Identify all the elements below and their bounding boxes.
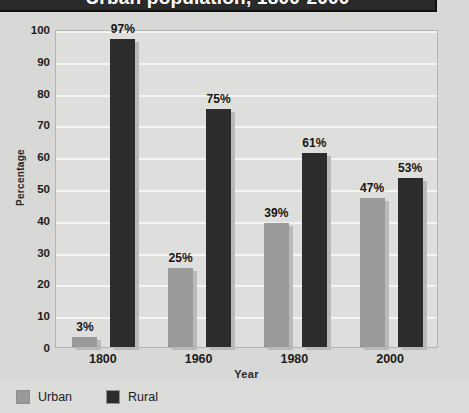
chart-region: Percentage 1009080706050403020100 3%97%2… xyxy=(0,12,469,381)
bar-urban-1980 xyxy=(264,223,289,347)
y-axis-tick: 100 xyxy=(18,24,50,36)
legend-label: Rural xyxy=(128,390,158,404)
chart-legend: UrbanRural xyxy=(0,381,469,413)
legend-swatch-icon xyxy=(16,390,30,404)
bar-urban-1960 xyxy=(168,268,193,348)
bar-rural-1980 xyxy=(302,153,327,347)
x-axis-title: Year xyxy=(55,368,438,380)
y-axis-tick: 30 xyxy=(18,247,50,259)
bar-group: 3%97% xyxy=(56,31,152,347)
legend-label: Urban xyxy=(38,390,72,404)
bar-value-label: 39% xyxy=(246,206,307,220)
y-axis-tick: 90 xyxy=(18,56,50,68)
title-banner: Urban population, 1800-2000 xyxy=(0,0,437,12)
plot-area: 3%97%25%75%39%61%47%53% xyxy=(55,30,438,348)
y-axis-tick: 80 xyxy=(18,88,50,100)
y-axis-tick-labels: 1009080706050403020100 xyxy=(18,30,50,348)
y-axis-tick: 60 xyxy=(18,151,50,163)
bar-value-label: 75% xyxy=(188,92,249,106)
y-axis-tick: 40 xyxy=(18,215,50,227)
bar-urban-2000 xyxy=(360,198,385,347)
bars-layer: 3%97%25%75%39%61%47%53% xyxy=(56,31,437,347)
bar-group: 47%53% xyxy=(343,31,439,347)
legend-item-rural: Rural xyxy=(106,390,158,404)
x-axis-tick: 1800 xyxy=(55,352,151,366)
bar-value-label: 61% xyxy=(284,136,345,150)
y-axis-tick: 0 xyxy=(18,342,50,354)
y-axis-tick: 50 xyxy=(18,183,50,195)
x-axis-tick: 1960 xyxy=(151,352,247,366)
y-axis-tick: 20 xyxy=(18,278,50,290)
bar-value-label: 97% xyxy=(92,22,153,36)
x-axis-tick: 1980 xyxy=(247,352,343,366)
chart-screenshot: Urban population, 1800-2000 Percentage 1… xyxy=(0,0,469,413)
bar-rural-1960 xyxy=(206,109,231,348)
x-axis-tick: 2000 xyxy=(342,352,438,366)
legend-item-urban: Urban xyxy=(16,390,72,404)
bar-urban-1800 xyxy=(72,337,97,347)
y-axis-tick: 70 xyxy=(18,119,50,131)
bar-value-label: 25% xyxy=(150,251,211,265)
bar-value-label: 3% xyxy=(54,320,115,334)
bar-value-label: 53% xyxy=(380,161,441,175)
bar-group: 39%61% xyxy=(248,31,344,347)
bar-group: 25%75% xyxy=(152,31,248,347)
bar-rural-2000 xyxy=(398,178,423,347)
bar-value-label: 47% xyxy=(342,181,403,195)
y-axis-tick: 10 xyxy=(18,310,50,322)
bar-rural-1800 xyxy=(110,39,135,347)
chart-title: Urban population, 1800-2000 xyxy=(0,0,435,8)
legend-swatch-icon xyxy=(106,390,120,404)
